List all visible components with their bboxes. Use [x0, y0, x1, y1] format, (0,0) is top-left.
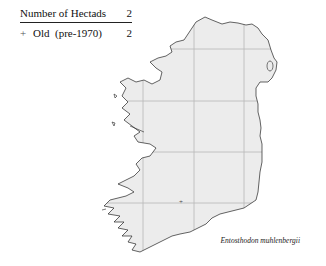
land-fill: [104, 17, 277, 252]
ireland-map: +: [0, 0, 326, 266]
marker-plus-icon: +: [179, 198, 183, 206]
species-name: Entosthodon muhlenbergii: [220, 236, 300, 245]
